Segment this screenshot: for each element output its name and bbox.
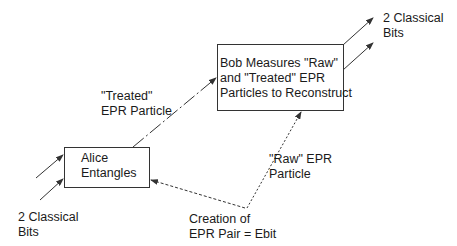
raw-line-2: Particle xyxy=(269,167,332,182)
input-bit-arrow-1 xyxy=(36,155,63,178)
input-bits-line-2: Bits xyxy=(18,225,78,240)
input-bits-line-1: 2 Classical xyxy=(18,210,78,225)
alice-line-2: Entangles xyxy=(81,166,137,181)
alice-line-1: Alice xyxy=(81,151,137,166)
raw-line-1: "Raw" EPR xyxy=(269,152,332,167)
output-bits-label: 2 Classical Bits xyxy=(383,11,443,41)
raw-particle-label: "Raw" EPR Particle xyxy=(269,152,332,182)
bob-box-label: Bob Measures "Raw" and "Treated" EPR Par… xyxy=(220,56,352,101)
alice-box-label: Alice Entangles xyxy=(81,151,137,181)
input-bits-label: 2 Classical Bits xyxy=(18,210,78,240)
bob-line-3: Particles to Reconstruct xyxy=(220,86,352,101)
epr-line-1: Creation of xyxy=(189,212,276,227)
output-bits-line-2: Bits xyxy=(383,26,443,41)
treated-line-2: EPR Particle xyxy=(101,104,172,119)
bob-line-2: and "Treated" EPR xyxy=(220,71,352,86)
epr-line-2: EPR Pair = Ebit xyxy=(189,227,276,242)
treated-line-1: "Treated" xyxy=(101,89,172,104)
epr-to-alice-arrow xyxy=(151,180,245,208)
epr-source-label: Creation of EPR Pair = Ebit xyxy=(189,212,276,242)
output-bit-arrow-1 xyxy=(343,18,373,45)
bob-line-1: Bob Measures "Raw" xyxy=(220,56,352,71)
output-bits-line-1: 2 Classical xyxy=(383,11,443,26)
treated-particle-label: "Treated" EPR Particle xyxy=(101,89,172,119)
input-bit-arrow-2 xyxy=(40,179,63,200)
